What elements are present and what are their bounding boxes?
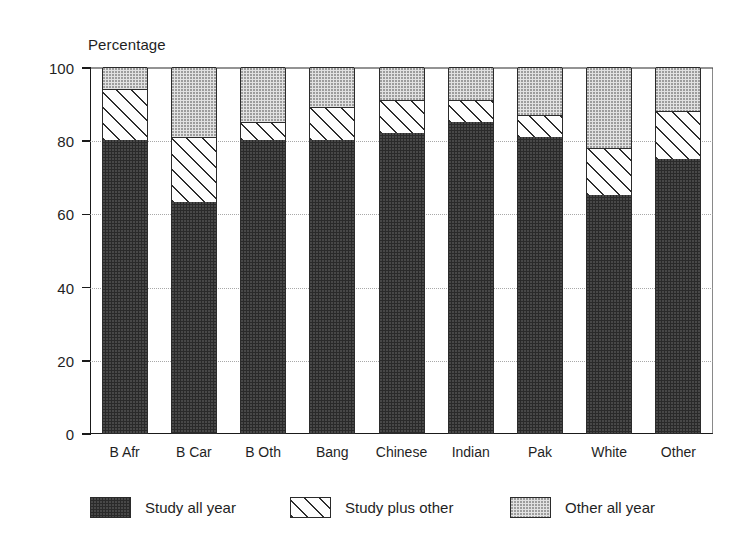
- bar-white: [586, 68, 632, 434]
- segment-study-plus-other: [587, 148, 631, 196]
- legend-item: Other all year: [510, 494, 655, 520]
- segment-other-all-year: [449, 67, 493, 100]
- segment-study-plus-other: [449, 100, 493, 122]
- legend-item: Study all year: [90, 494, 236, 520]
- x-axis-label-pak: Pak: [505, 444, 574, 460]
- legend-item: Study plus other: [290, 494, 453, 520]
- segment-other-all-year: [172, 67, 216, 137]
- segment-other-all-year: [518, 67, 562, 115]
- segment-study-all-year: [449, 122, 493, 433]
- x-axis-label-other: Other: [644, 444, 713, 460]
- solid-dark-swatch: [90, 497, 131, 518]
- segment-study-all-year: [518, 137, 562, 433]
- bar-other: [655, 68, 701, 434]
- bars-layer: [90, 68, 713, 434]
- bar-b-oth: [240, 68, 286, 434]
- segment-study-all-year: [103, 140, 147, 433]
- segment-study-all-year: [241, 140, 285, 433]
- light-dotted-swatch: [510, 497, 551, 518]
- segment-study-all-year: [310, 140, 354, 433]
- y-axis-title: Percentage: [88, 36, 166, 53]
- x-axis-label-b-car: B Car: [159, 444, 228, 460]
- y-axis-tick-label: 40: [0, 279, 74, 296]
- segment-study-all-year: [587, 195, 631, 433]
- x-axis-label-b-oth: B Oth: [228, 444, 297, 460]
- segment-study-all-year: [656, 159, 700, 434]
- segment-other-all-year: [310, 67, 354, 107]
- legend-label: Other all year: [565, 499, 655, 516]
- segment-other-all-year: [103, 67, 147, 89]
- segment-study-plus-other: [380, 100, 424, 133]
- bar-indian: [448, 68, 494, 434]
- x-axis-label-indian: Indian: [436, 444, 505, 460]
- segment-other-all-year: [587, 67, 631, 148]
- stacked-bar-chart: Percentage 020406080100 B AfrB CarB OthB…: [0, 0, 752, 542]
- bar-bang: [309, 68, 355, 434]
- bar-pak: [517, 68, 563, 434]
- x-axis-label-chinese: Chinese: [367, 444, 436, 460]
- y-axis-tick-label: 80: [0, 133, 74, 150]
- segment-study-plus-other: [656, 111, 700, 159]
- segment-other-all-year: [380, 67, 424, 100]
- bar-b-car: [171, 68, 217, 434]
- y-axis-tick-label: 0: [0, 426, 74, 443]
- segment-study-plus-other: [518, 115, 562, 137]
- x-axis-label-bang: Bang: [298, 444, 367, 460]
- diagonal-hatch-swatch: [290, 497, 331, 518]
- segment-study-plus-other: [172, 137, 216, 203]
- chart-legend: Study all yearStudy plus otherOther all …: [90, 494, 700, 526]
- y-axis-tick-label: 60: [0, 206, 74, 223]
- bar-chinese: [379, 68, 425, 434]
- y-axis-tick-label: 20: [0, 352, 74, 369]
- segment-study-all-year: [172, 202, 216, 433]
- segment-study-plus-other: [241, 122, 285, 140]
- bar-b-afr: [102, 68, 148, 434]
- legend-label: Study all year: [145, 499, 236, 516]
- segment-study-plus-other: [103, 89, 147, 140]
- legend-label: Study plus other: [345, 499, 453, 516]
- segment-study-all-year: [380, 133, 424, 433]
- segment-study-plus-other: [310, 107, 354, 140]
- segment-other-all-year: [241, 67, 285, 122]
- x-axis-label-b-afr: B Afr: [90, 444, 159, 460]
- segment-other-all-year: [656, 67, 700, 111]
- y-axis-tick-label: 100: [0, 60, 74, 77]
- x-axis-label-white: White: [575, 444, 644, 460]
